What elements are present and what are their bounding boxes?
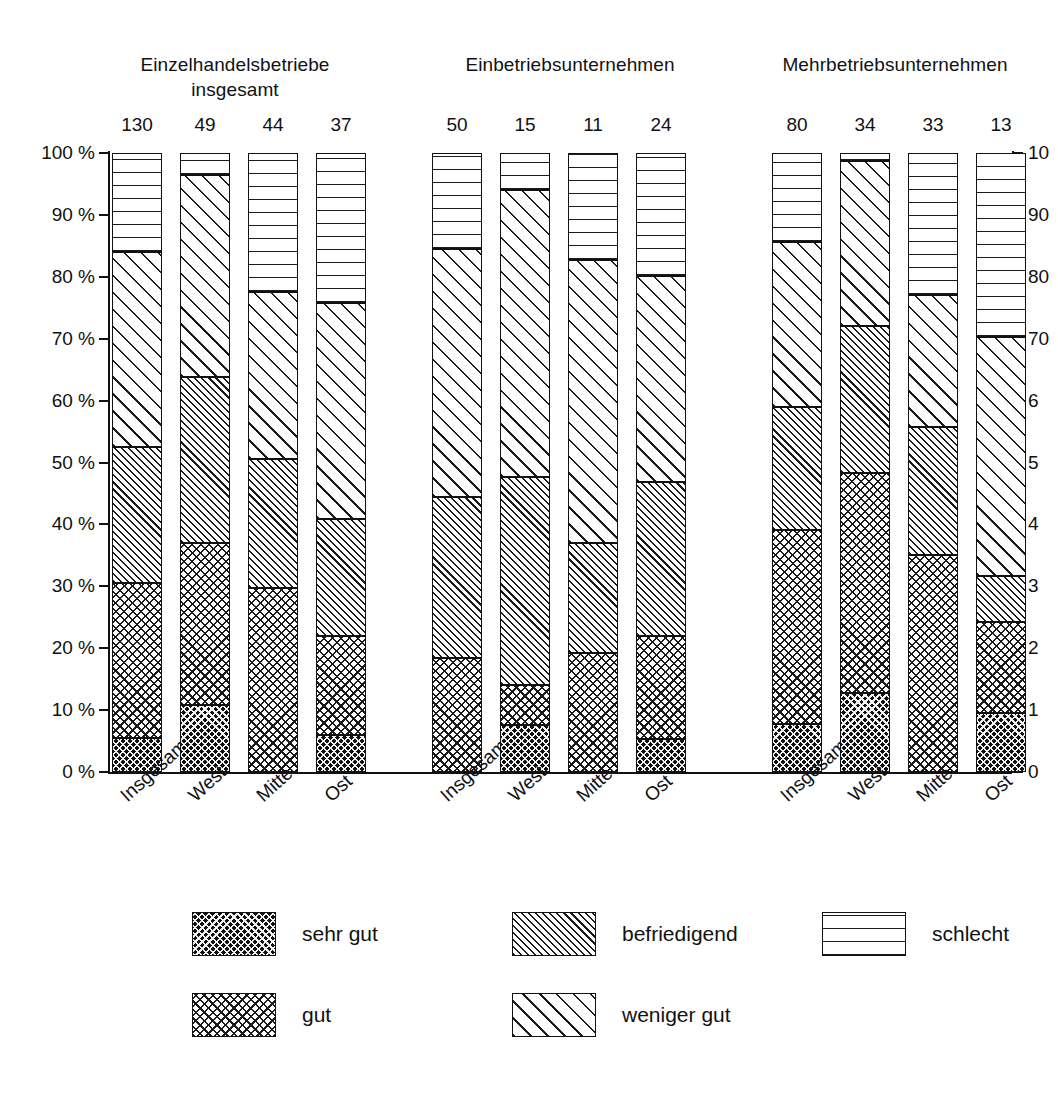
y-tick-right-label-80: 80 — [1028, 266, 1049, 288]
bar-2-0[interactable] — [772, 153, 822, 772]
bar-segment-weniger-gut — [248, 292, 298, 459]
bar-segment-gut — [772, 530, 822, 724]
bar-segment-gut — [180, 543, 230, 705]
bar-segment-gut — [976, 622, 1026, 713]
legend-label-gut: gut — [302, 1003, 331, 1027]
y-tick-right-label-100: 10 — [1028, 142, 1049, 164]
stacked-bar-chart: Einzelhandelsbetriebe insgesamt Einbetri… — [0, 0, 1058, 1098]
y-tick-right-label-20: 2 — [1028, 637, 1039, 659]
bar-segment-sehr-gut — [500, 725, 550, 772]
bar-segment-befriedigend — [432, 497, 482, 658]
legend-label-schlecht: schlecht — [932, 922, 1009, 946]
y-tick-90 — [99, 214, 108, 216]
y-tick-label-30: 30 % — [0, 575, 95, 597]
y-tick-right-label-90: 90 — [1028, 204, 1049, 226]
bar-segment-befriedigend — [636, 482, 686, 636]
bar-segment-befriedigend — [112, 447, 162, 583]
y-tick-right-label-40: 4 — [1028, 513, 1039, 535]
bar-segment-befriedigend — [316, 519, 366, 635]
bar-segment-gut — [908, 555, 958, 772]
y-tick-label-70: 70 % — [0, 328, 95, 350]
bar-category-label: Ost — [640, 770, 677, 806]
bar-segment-weniger-gut — [568, 260, 618, 543]
bar-segment-sehr-gut — [976, 713, 1026, 772]
legend-item-sehr-gut: sehr gut — [192, 912, 378, 956]
bar-segment-sehr-gut — [840, 693, 890, 772]
bar-segment-befriedigend — [772, 407, 822, 530]
bar-2-3[interactable] — [976, 153, 1026, 772]
bar-category-label: Ost — [320, 770, 357, 806]
y-axis-left — [108, 151, 110, 773]
bar-segment-schlecht — [112, 153, 162, 252]
y-tick-80 — [99, 276, 108, 278]
y-tick-right-label-70: 70 — [1028, 328, 1049, 350]
bar-segment-befriedigend — [840, 326, 890, 473]
bar-2-2[interactable] — [908, 153, 958, 772]
bar-count-label: 34 — [854, 114, 875, 136]
bar-segment-weniger-gut — [636, 276, 686, 483]
bar-segment-gut — [248, 588, 298, 772]
bar-1-1[interactable] — [500, 153, 550, 772]
legend-label-weniger-gut: weniger gut — [622, 1003, 731, 1027]
bar-segment-befriedigend — [248, 459, 298, 587]
y-tick-right-label-0: 0 — [1028, 761, 1039, 783]
bar-segment-gut — [112, 583, 162, 738]
bar-1-0[interactable] — [432, 153, 482, 772]
bar-0-0[interactable] — [112, 153, 162, 772]
y-tick-40 — [99, 523, 108, 525]
legend-item-gut: gut — [192, 993, 331, 1037]
bar-count-label: 33 — [922, 114, 943, 136]
bar-segment-schlecht — [976, 153, 1026, 337]
legend-swatch-gut — [192, 993, 276, 1037]
bar-segment-weniger-gut — [840, 161, 890, 326]
bar-1-2[interactable] — [568, 153, 618, 772]
y-tick-label-60: 60 % — [0, 390, 95, 412]
bar-0-2[interactable] — [248, 153, 298, 772]
y-tick-label-100: 100 % — [0, 142, 95, 164]
bar-segment-sehr-gut — [180, 705, 230, 772]
bar-segment-gut — [316, 636, 366, 736]
bar-1-3[interactable] — [636, 153, 686, 772]
bar-segment-sehr-gut — [636, 739, 686, 772]
bar-count-label: 11 — [583, 114, 603, 136]
legend-label-befriedigend: befriedigend — [622, 922, 738, 946]
bar-segment-schlecht — [908, 153, 958, 295]
bar-segment-befriedigend — [908, 427, 958, 556]
bar-category-label: Ost — [980, 770, 1017, 806]
y-tick-label-90: 90 % — [0, 204, 95, 226]
bar-segment-befriedigend — [180, 377, 230, 543]
legend-label-sehr-gut: sehr gut — [302, 922, 378, 946]
legend-swatch-weniger-gut — [512, 993, 596, 1037]
y-tick-20 — [99, 647, 108, 649]
bar-segment-weniger-gut — [976, 337, 1026, 575]
bar-count-label: 130 — [121, 114, 153, 136]
bar-segment-schlecht — [248, 153, 298, 292]
legend-item-befriedigend: befriedigend — [512, 912, 738, 956]
legend-item-schlecht: schlecht — [822, 912, 1009, 956]
bar-count-label: 44 — [262, 114, 283, 136]
y-tick-10 — [99, 709, 108, 711]
y-tick-right-label-30: 3 — [1028, 575, 1039, 597]
bar-0-1[interactable] — [180, 153, 230, 772]
y-tick-100 — [99, 152, 108, 154]
bar-count-label: 13 — [990, 114, 1011, 136]
y-tick-50 — [99, 462, 108, 464]
bar-segment-schlecht — [840, 153, 890, 161]
bar-segment-schlecht — [568, 153, 618, 260]
bar-segment-schlecht — [180, 153, 230, 175]
y-tick-right-label-10: 1 — [1028, 699, 1039, 721]
y-tick-right-label-60: 6 — [1028, 390, 1039, 412]
bar-segment-weniger-gut — [112, 252, 162, 447]
bar-segment-schlecht — [772, 153, 822, 242]
y-tick-60 — [99, 400, 108, 402]
bar-segment-schlecht — [500, 153, 550, 190]
y-tick-30 — [99, 585, 108, 587]
legend-swatch-befriedigend — [512, 912, 596, 956]
bar-2-1[interactable] — [840, 153, 890, 772]
bar-0-3[interactable] — [316, 153, 366, 772]
y-tick-label-10: 10 % — [0, 699, 95, 721]
bar-segment-weniger-gut — [316, 303, 366, 520]
bar-segment-befriedigend — [976, 576, 1026, 622]
legend-swatch-schlecht — [822, 912, 906, 956]
y-tick-label-20: 20 % — [0, 637, 95, 659]
